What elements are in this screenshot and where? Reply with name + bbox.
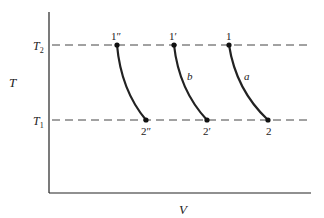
label-point-1-double-prime: 1″ [111, 30, 121, 42]
point-1-prime [171, 42, 176, 47]
label-point-2: 2 [266, 125, 272, 137]
tv-diagram: T V T2 T1 1 2 a 1′ 2′ b 1″ 2″ [0, 0, 324, 218]
label-point-1: 1 [226, 30, 232, 42]
curve-double-prime [117, 45, 146, 120]
point-1-double-prime [114, 42, 119, 47]
tick-t2: T2 [33, 39, 44, 55]
point-2-double-prime [143, 117, 148, 122]
x-axis-label: V [179, 202, 189, 217]
point-1 [226, 42, 231, 47]
point-2-prime [204, 117, 209, 122]
label-point-2-prime: 2′ [203, 125, 211, 137]
label-point-1-prime: 1′ [169, 30, 177, 42]
point-2 [265, 117, 270, 122]
label-point-2-double-prime: 2″ [141, 125, 151, 137]
y-axis-label: T [9, 75, 17, 90]
curve-a [229, 45, 268, 120]
tick-t1: T1 [33, 114, 44, 130]
curve-b [174, 45, 207, 120]
curve-a-label: a [244, 70, 250, 82]
curve-b-label: b [187, 70, 193, 82]
